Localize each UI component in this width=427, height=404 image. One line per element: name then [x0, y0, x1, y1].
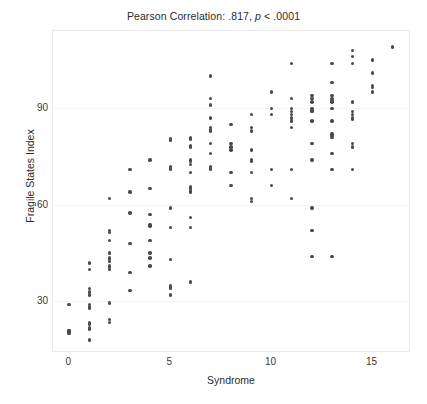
- scatter-point: [189, 216, 192, 219]
- chart-title-suffix: < .0001: [264, 10, 300, 22]
- scatter-point: [250, 200, 253, 203]
- scatter-point: [128, 242, 131, 245]
- scatter-point: [108, 321, 111, 324]
- gridline-horizontal: [53, 108, 409, 109]
- scatter-point: [371, 86, 374, 89]
- scatter-point: [67, 332, 70, 335]
- chart-title-italic-p: p: [255, 10, 261, 22]
- scatter-point: [270, 107, 273, 110]
- scatter-plot-figure: Pearson Correlation: .817, p < .0001 306…: [0, 0, 427, 404]
- scatter-point: [330, 107, 333, 110]
- scatter-point: [128, 271, 131, 274]
- scatter-point: [189, 280, 192, 283]
- scatter-point: [209, 74, 212, 77]
- scatter-point: [330, 81, 333, 84]
- scatter-point: [330, 168, 333, 171]
- scatter-point: [310, 142, 313, 145]
- scatter-point: [169, 139, 172, 142]
- scatter-point: [229, 171, 232, 174]
- scatter-point: [169, 168, 172, 171]
- scatter-point: [148, 264, 151, 267]
- scatter-point: [351, 49, 354, 52]
- gridline-horizontal: [53, 205, 409, 206]
- scatter-point: [209, 168, 212, 171]
- scatter-point: [351, 145, 354, 148]
- x-tick-label: 15: [352, 356, 392, 367]
- scatter-point: [128, 168, 131, 171]
- scatter-point: [148, 224, 151, 227]
- plot-area: [53, 31, 409, 351]
- x-axis-title: Syndrome: [52, 374, 410, 386]
- scatter-point: [169, 226, 172, 229]
- scatter-point: [169, 293, 172, 296]
- x-tick-label: 5: [149, 356, 189, 367]
- scatter-point: [270, 184, 273, 187]
- scatter-point: [351, 55, 354, 58]
- scatter-point: [148, 187, 151, 190]
- scatter-point: [270, 90, 273, 93]
- scatter-point: [169, 206, 172, 209]
- scatter-point: [250, 160, 253, 163]
- scatter-point: [169, 287, 172, 290]
- scatter-point: [209, 129, 212, 132]
- scatter-point: [351, 118, 354, 121]
- scatter-point: [128, 211, 131, 214]
- y-axis-title: Fragile States Index: [24, 86, 36, 266]
- scatter-point: [209, 97, 212, 100]
- scatter-point: [330, 255, 333, 258]
- scatter-point: [88, 293, 91, 296]
- scatter-point: [148, 256, 151, 259]
- scatter-point: [330, 152, 333, 155]
- scatter-point: [67, 303, 70, 306]
- scatter-point: [371, 90, 374, 93]
- scatter-point: [270, 168, 273, 171]
- gridline-horizontal: [53, 301, 409, 302]
- scatter-point: [88, 261, 91, 264]
- scatter-point: [108, 239, 111, 242]
- x-tick-label: 0: [48, 356, 88, 367]
- scatter-point: [310, 110, 313, 113]
- scatter-point: [270, 113, 273, 116]
- scatter-point: [330, 100, 333, 103]
- scatter-point: [169, 258, 172, 261]
- scatter-point: [290, 197, 293, 200]
- scatter-point: [229, 184, 232, 187]
- scatter-point: [209, 103, 212, 106]
- scatter-point: [351, 168, 354, 171]
- scatter-point: [351, 62, 354, 65]
- scatter-point: [310, 119, 313, 122]
- scatter-point: [290, 119, 293, 122]
- scatter-point: [330, 136, 333, 139]
- scatter-point: [250, 148, 253, 151]
- scatter-point: [108, 260, 111, 263]
- chart-title: Pearson Correlation: .817, p < .0001: [0, 10, 427, 22]
- scatter-point: [148, 158, 151, 161]
- scatter-point: [189, 190, 192, 193]
- scatter-point: [189, 163, 192, 166]
- scatter-point: [88, 306, 91, 309]
- y-tick-label: 30: [4, 295, 48, 306]
- scatter-point: [88, 327, 91, 330]
- chart-title-prefix: Pearson Correlation: .817,: [127, 10, 252, 22]
- scatter-point: [128, 289, 131, 292]
- scatter-point: [148, 239, 151, 242]
- x-tick-label: 10: [250, 356, 290, 367]
- scatter-point: [88, 338, 91, 341]
- scatter-point: [209, 152, 212, 155]
- plot-frame: [52, 30, 410, 352]
- scatter-point: [88, 268, 91, 271]
- scatter-point: [371, 58, 374, 61]
- scatter-point: [330, 62, 333, 65]
- scatter-point: [189, 171, 192, 174]
- scatter-point: [229, 123, 232, 126]
- x-axis-ticks: 051015: [52, 352, 410, 372]
- scatter-point: [290, 168, 293, 171]
- scatter-point: [371, 71, 374, 74]
- scatter-point: [189, 145, 192, 148]
- scatter-point: [250, 171, 253, 174]
- scatter-point: [108, 231, 111, 234]
- scatter-point: [250, 129, 253, 132]
- scatter-point: [108, 251, 111, 254]
- scatter-point: [189, 226, 192, 229]
- scatter-point: [250, 113, 253, 116]
